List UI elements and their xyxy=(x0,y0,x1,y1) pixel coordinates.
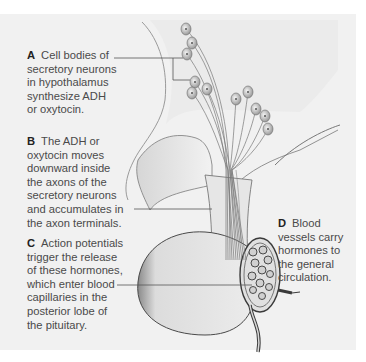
callout-letter: B xyxy=(27,135,35,147)
callout-letter: C xyxy=(27,237,35,249)
callout-d: DBlood vessels carry hormones to the gen… xyxy=(278,217,343,285)
callout-b: BThe ADH or oxytocin moves downward insi… xyxy=(27,135,123,230)
anterior-pituitary-lobe xyxy=(138,232,255,335)
callout-c: CAction potentials trigger the release o… xyxy=(27,237,123,332)
callout-letter: A xyxy=(27,49,35,61)
callout-a: ACell bodies of secretory neurons in hyp… xyxy=(27,49,117,117)
callout-letter: D xyxy=(278,217,286,229)
